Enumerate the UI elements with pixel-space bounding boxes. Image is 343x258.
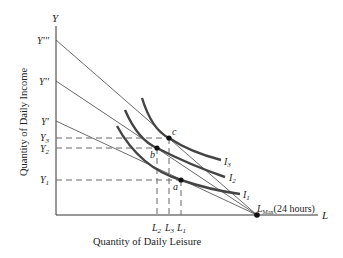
y-axis-title: Quantity of Daily Income xyxy=(18,68,29,177)
point-c xyxy=(166,135,171,140)
label-point-b: b xyxy=(150,149,155,160)
point-a xyxy=(178,177,183,182)
x-axis-symbol: L xyxy=(321,209,328,221)
label-l3: L3 xyxy=(164,222,175,235)
label-point-c: c xyxy=(172,126,177,137)
point-b xyxy=(154,145,159,150)
label-i3: I3 xyxy=(223,156,231,169)
label-l1: L1 xyxy=(176,222,186,235)
label-y-triple-prime: Y''' xyxy=(37,35,50,46)
label-l2: L2 xyxy=(151,222,162,235)
label-point-a: a xyxy=(173,181,178,192)
label-y-prime: Y' xyxy=(41,116,50,127)
label-y1: Y1 xyxy=(40,174,49,187)
label-y-double-prime: Y'' xyxy=(39,76,50,87)
label-i1: I1 xyxy=(242,189,250,202)
x-axis-title: Quantity of Daily Leisure xyxy=(93,236,202,247)
label-lmax: LMax(24 hours) xyxy=(256,203,315,215)
label-i2: I2 xyxy=(228,172,236,185)
labor-leisure-diagram: Y L Y''' Y'' Y' Y3 Y2 Y1 L2 L3 L1 c b a … xyxy=(0,0,343,258)
y-axis-symbol: Y xyxy=(52,12,60,24)
